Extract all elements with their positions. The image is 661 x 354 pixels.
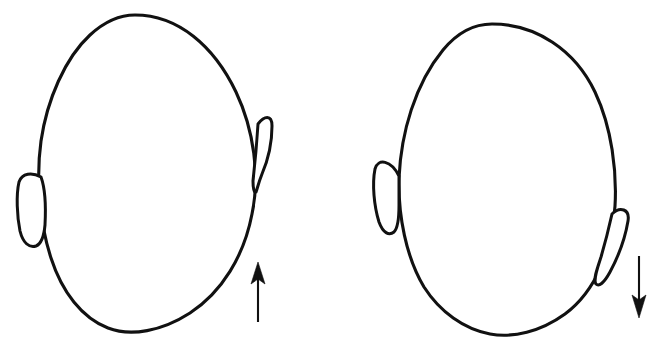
head-outline-right — [399, 24, 615, 335]
ear-right-upper — [253, 118, 272, 193]
ear-left-upper — [374, 162, 399, 234]
left-panel — [17, 15, 272, 332]
arrow-down — [632, 256, 646, 318]
right-panel — [374, 24, 646, 335]
head-outline-left — [39, 15, 256, 332]
ear-left-lower — [17, 174, 45, 246]
arrow-up — [251, 262, 265, 322]
figure-root — [0, 0, 661, 354]
head-diagram-svg — [0, 0, 661, 354]
